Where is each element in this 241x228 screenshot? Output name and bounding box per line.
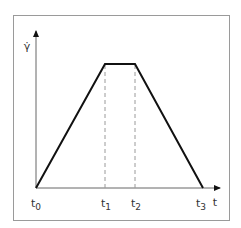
svg-text:t2: t2: [131, 197, 141, 212]
diagram-frame: [14, 16, 230, 221]
svg-text:t0: t0: [31, 197, 41, 212]
shear-rate-diagram: γ̇ t0 t1 t2 t3 t: [0, 0, 241, 228]
shear-rate-curve: [36, 64, 203, 188]
time-label-t3: t3: [196, 197, 206, 212]
svg-text:t3: t3: [196, 197, 206, 212]
svg-text:t1: t1: [101, 197, 111, 212]
y-axis-label: γ̇: [24, 40, 31, 53]
time-label-t1: t1: [101, 197, 111, 212]
time-label-t2: t2: [131, 197, 141, 212]
time-label-t0: t0: [31, 197, 41, 212]
x-axis-label: t: [213, 196, 218, 209]
